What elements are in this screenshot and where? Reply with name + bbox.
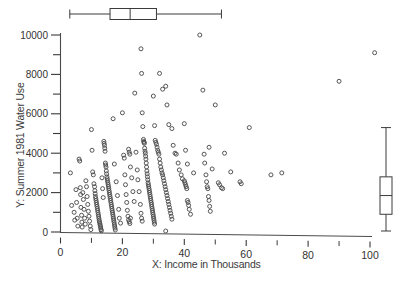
plot-canvas: 0200040006000800010000 020406080100 bbox=[0, 0, 407, 282]
x-axis-title: X: Income in Thousands bbox=[152, 258, 261, 270]
svg-text:6000: 6000 bbox=[26, 108, 49, 119]
svg-text:80: 80 bbox=[302, 249, 314, 261]
svg-text:20: 20 bbox=[117, 246, 129, 258]
svg-text:0: 0 bbox=[42, 227, 48, 238]
svg-text:10000: 10000 bbox=[20, 30, 48, 41]
x-axis-ticks bbox=[61, 238, 371, 248]
svg-text:4000: 4000 bbox=[26, 148, 49, 159]
svg-text:100: 100 bbox=[361, 249, 379, 261]
scatter-plot-figure: Y: Summer 1981 Water Use X: Income in Th… bbox=[0, 0, 407, 282]
x-marginal-boxplot bbox=[70, 9, 222, 20]
svg-text:8000: 8000 bbox=[26, 69, 49, 80]
axis-lines bbox=[60, 33, 372, 237]
y-axis-ticks bbox=[51, 35, 60, 232]
svg-text:2000: 2000 bbox=[26, 187, 49, 198]
data-points bbox=[68, 33, 376, 233]
y-axis-title: Y: Summer 1981 Water Use bbox=[14, 82, 26, 208]
svg-text:0: 0 bbox=[58, 246, 64, 258]
y-marginal-boxplot bbox=[380, 128, 392, 231]
